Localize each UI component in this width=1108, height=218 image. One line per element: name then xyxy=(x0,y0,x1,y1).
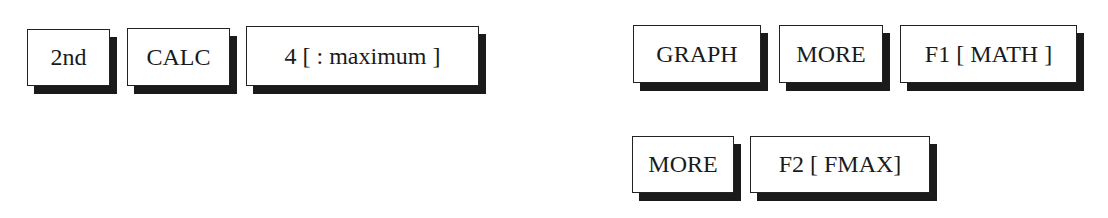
key-f1-math[interactable]: F1 [ MATH ] xyxy=(900,25,1077,83)
key-calc[interactable]: CALC xyxy=(127,28,230,86)
key-more[interactable]: MORE xyxy=(779,25,883,83)
key-2nd[interactable]: 2nd xyxy=(27,29,110,86)
key-4-maximum[interactable]: 4 [ : maximum ] xyxy=(246,26,479,86)
key-graph[interactable]: GRAPH xyxy=(633,25,761,83)
key-f2-fmax[interactable]: F2 [ FMAX] xyxy=(750,136,930,193)
key-more-2[interactable]: MORE xyxy=(632,136,734,193)
